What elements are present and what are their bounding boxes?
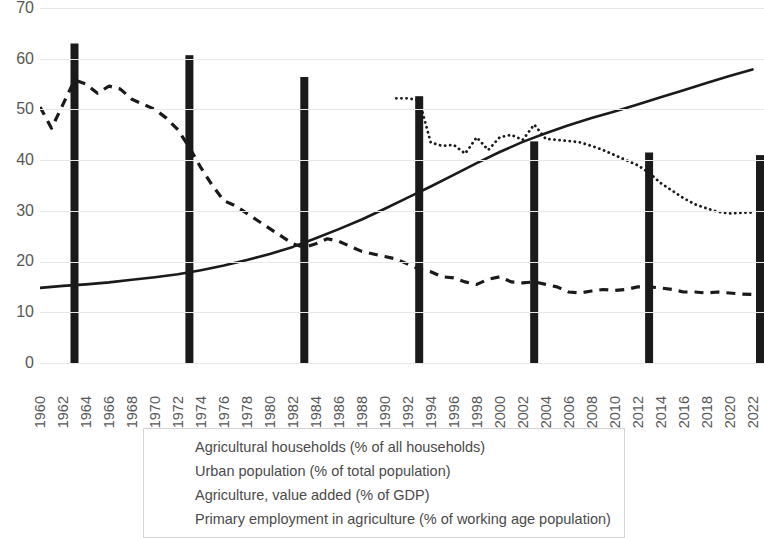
gridlines bbox=[40, 8, 764, 363]
x-tick-2004: 2004 bbox=[539, 396, 554, 428]
x-tick-1984: 1984 bbox=[309, 396, 324, 428]
plot-area bbox=[40, 8, 764, 363]
gridline-60 bbox=[40, 59, 764, 60]
y-tick-10: 10 bbox=[2, 304, 34, 320]
x-tick-2022: 2022 bbox=[746, 396, 761, 428]
x-tick-2012: 2012 bbox=[631, 396, 646, 428]
y-tick-60: 60 bbox=[2, 51, 34, 67]
legend-label: Agricultural households (% of all househ… bbox=[195, 440, 485, 455]
x-tick-1980: 1980 bbox=[263, 396, 278, 428]
legend-item-primary-employment: Primary employment in agriculture (% of … bbox=[152, 507, 618, 531]
x-tick-2014: 2014 bbox=[654, 396, 669, 428]
gridline-0 bbox=[40, 363, 764, 364]
x-tick-1962: 1962 bbox=[56, 396, 71, 428]
y-tick-50: 50 bbox=[2, 101, 34, 117]
legend-label: Primary employment in agriculture (% of … bbox=[195, 512, 611, 527]
x-tick-1982: 1982 bbox=[286, 396, 301, 428]
y-tick-20: 20 bbox=[2, 253, 34, 269]
gridline-70 bbox=[40, 8, 764, 9]
gridline-10 bbox=[40, 312, 764, 313]
y-tick-40: 40 bbox=[2, 152, 34, 168]
y-tick-30: 30 bbox=[2, 203, 34, 219]
y-tick-0: 0 bbox=[2, 355, 34, 371]
x-tick-2020: 2020 bbox=[723, 396, 738, 428]
x-tick-1976: 1976 bbox=[217, 396, 232, 428]
x-tick-1996: 1996 bbox=[447, 396, 462, 428]
x-axis: 1960196219641966196819701972197419761978… bbox=[40, 366, 764, 428]
legend-label: Agriculture, value added (% of GDP) bbox=[195, 488, 430, 503]
x-tick-1974: 1974 bbox=[194, 396, 209, 428]
solid-line-icon bbox=[152, 464, 188, 478]
x-tick-1994: 1994 bbox=[424, 396, 439, 428]
gridline-40 bbox=[40, 160, 764, 161]
x-tick-2000: 2000 bbox=[493, 396, 508, 428]
x-tick-1992: 1992 bbox=[401, 396, 416, 428]
x-tick-1966: 1966 bbox=[102, 396, 117, 428]
gridline-20 bbox=[40, 262, 764, 263]
x-tick-1998: 1998 bbox=[470, 396, 485, 428]
y-tick-70: 70 bbox=[2, 0, 34, 16]
x-tick-1968: 1968 bbox=[125, 396, 140, 428]
dashed-line-icon bbox=[152, 488, 188, 502]
x-tick-1960: 1960 bbox=[33, 396, 48, 428]
x-tick-2002: 2002 bbox=[516, 396, 531, 428]
x-tick-2008: 2008 bbox=[585, 396, 600, 428]
x-tick-1972: 1972 bbox=[171, 396, 186, 428]
x-tick-1990: 1990 bbox=[378, 396, 393, 428]
x-tick-2018: 2018 bbox=[700, 396, 715, 428]
x-tick-1970: 1970 bbox=[148, 396, 163, 428]
legend-item-urban-population: Urban population (% of total population) bbox=[152, 459, 618, 483]
x-tick-1988: 1988 bbox=[355, 396, 370, 428]
legend-item-agriculture-value-added: Agriculture, value added (% of GDP) bbox=[152, 483, 618, 507]
x-tick-2016: 2016 bbox=[677, 396, 692, 428]
gridline-30 bbox=[40, 211, 764, 212]
legend-label: Urban population (% of total population) bbox=[195, 464, 451, 479]
x-tick-1964: 1964 bbox=[79, 396, 94, 428]
x-tick-1986: 1986 bbox=[332, 396, 347, 428]
legend-item-agricultural-households: Agricultural households (% of all househ… bbox=[152, 435, 618, 459]
x-tick-2006: 2006 bbox=[562, 396, 577, 428]
x-tick-2010: 2010 bbox=[608, 396, 623, 428]
x-tick-1978: 1978 bbox=[240, 396, 255, 428]
chart-legend: Agricultural households (% of all househ… bbox=[143, 428, 625, 538]
bar-swatch-icon bbox=[152, 440, 188, 454]
gridline-50 bbox=[40, 109, 764, 110]
y-axis: 70 60 50 40 30 20 10 0 bbox=[0, 0, 34, 372]
dotted-line-icon bbox=[152, 512, 188, 526]
